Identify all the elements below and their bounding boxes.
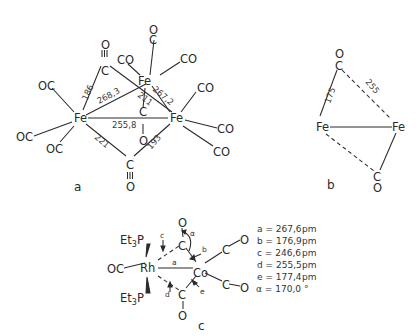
co-top-carbon: C	[149, 33, 157, 47]
b-fe-left: Fe	[316, 120, 329, 134]
legend-row-e: e = 177,4pm	[257, 272, 316, 282]
fe-atom-right: Fe	[170, 111, 183, 125]
bond-label-d: d	[165, 290, 170, 299]
b-fe-right: Fe	[392, 120, 405, 134]
co-ligand-right-2: CO	[217, 122, 234, 136]
bond-label-a: a	[172, 258, 177, 267]
distance-267-2: 267,2	[151, 84, 176, 107]
co-right2-oxygen: O	[240, 281, 249, 295]
co-ligand-top-left: CO	[117, 53, 134, 67]
oc-ligand-left: OC	[107, 262, 124, 276]
diagram-c: O C C O Rh Co OC Et3P Et3P C O C O a b c…	[107, 216, 316, 333]
legend-row-c: c = 246,6pm	[257, 248, 316, 258]
bond-label-e: e	[200, 287, 205, 296]
c-bottom-oxygen: O	[178, 309, 187, 323]
bridge-top-oxygen: O	[101, 38, 110, 52]
bridge-top-carbon: C	[101, 64, 109, 78]
distance-175: 175	[322, 86, 337, 105]
bond-label-b: b	[202, 245, 207, 254]
panel-label-a: a	[74, 180, 81, 194]
co-right1-oxygen: O	[240, 233, 249, 247]
legend-row-alpha: α = 170,0°	[256, 284, 308, 294]
co-ligand-right-3: CO	[213, 145, 230, 159]
legend-row-a: a = 267,6pm	[257, 224, 316, 234]
c-bottom-carbon: C	[178, 288, 186, 302]
c-top-carbon: C	[178, 239, 186, 253]
co-ligand-top-right: CO	[180, 52, 197, 66]
rh-atom: Rh	[140, 261, 155, 275]
co-ligand-left-1: OC	[38, 79, 55, 93]
co-atom: Co	[193, 266, 208, 280]
pet3-bottom: Et3P	[120, 291, 144, 307]
angle-label-alpha: α	[190, 229, 195, 238]
legend-row-d: d = 255,5pm	[257, 260, 316, 270]
pet3-top: Et3P	[120, 233, 144, 249]
co-ligand-right-1: CO	[197, 81, 214, 95]
panel-label-b: b	[327, 178, 335, 192]
panel-label-c: c	[198, 319, 205, 333]
legend-row-b: b = 176,9pm	[257, 236, 316, 246]
bond-length-legend: a = 267,6pm b = 176,9pm c = 246,6pm d = …	[256, 224, 316, 294]
distance-255: 255	[363, 77, 381, 96]
c-top-oxygen: O	[178, 216, 187, 230]
bridge-bottom-oxygen: O	[126, 180, 135, 194]
bond-label-c: c	[160, 231, 164, 240]
diagram-b: O C Fe Fe C O 175 255 b	[316, 47, 405, 195]
fe-atom-top: Fe	[138, 74, 151, 88]
bridge-bottom-carbon: C	[126, 158, 134, 172]
diagram-a: Fe Fe Fe OC OC OC O C CO CO CO CO CO O C…	[16, 23, 234, 194]
distance-268-3: 268,3	[95, 86, 121, 106]
figure-canvas: Fe Fe Fe OC OC OC O C CO CO CO CO CO O C…	[0, 0, 418, 336]
b-bottom-oxygen: O	[373, 181, 382, 195]
b-top-carbon: C	[335, 59, 343, 73]
co-right1-carbon: C	[222, 243, 230, 257]
distance-221: 221	[93, 132, 112, 150]
distance-255-8: 255,8	[112, 120, 136, 130]
co-right2-carbon: C	[222, 278, 230, 292]
co-ligand-left-3: OC	[46, 142, 63, 156]
fe-atom-left: Fe	[74, 111, 87, 125]
co-ligand-left-2: OC	[16, 130, 33, 144]
bridge-mid-carbon: C	[139, 105, 147, 119]
